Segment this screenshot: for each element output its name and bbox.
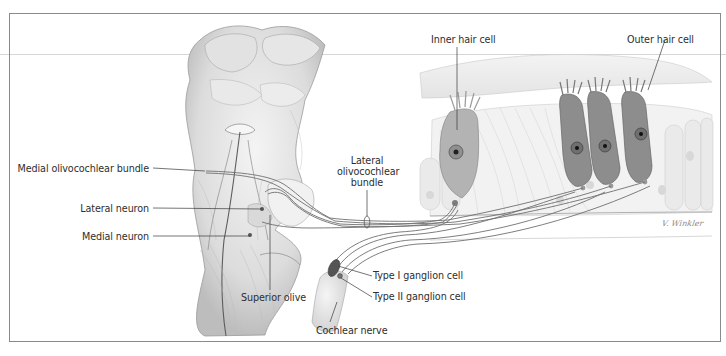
label-inner-hair-cell: Inner hair cell bbox=[431, 34, 496, 45]
label-cochlear-nerve: Cochlear nerve bbox=[316, 325, 387, 336]
label-line: olivocochlear bbox=[337, 166, 397, 177]
label-medial-olivocochlear-bundle: Medial olivocochlear bundle bbox=[18, 163, 149, 174]
label-lateral-neuron: Lateral neuron bbox=[80, 203, 149, 214]
tectorial-membrane bbox=[420, 54, 712, 98]
cochlear-nerve bbox=[312, 258, 348, 332]
label-medial-neuron: Medial neuron bbox=[82, 231, 149, 242]
label-line: Lateral bbox=[337, 155, 397, 166]
outer-hair-cells bbox=[560, 77, 652, 190]
label-lateral-olivocochlear-bundle: Lateral olivocochlear bundle bbox=[337, 155, 397, 188]
artist-signature: V. Winkler bbox=[661, 219, 704, 228]
label-line: bundle bbox=[337, 177, 397, 188]
label-type-ii-ganglion-cell: Type II ganglion cell bbox=[373, 291, 466, 302]
medial-neuron-dot bbox=[248, 233, 252, 237]
brainstem bbox=[186, 26, 325, 336]
label-superior-olive: Superior olive bbox=[241, 292, 306, 303]
label-outer-hair-cell: Outer hair cell bbox=[627, 34, 694, 45]
label-type-i-ganglion-cell: Type I ganglion cell bbox=[373, 270, 463, 281]
bundle-marker bbox=[364, 216, 370, 228]
figure: Medial olivocochlear bundle Lateral neur… bbox=[0, 0, 726, 356]
